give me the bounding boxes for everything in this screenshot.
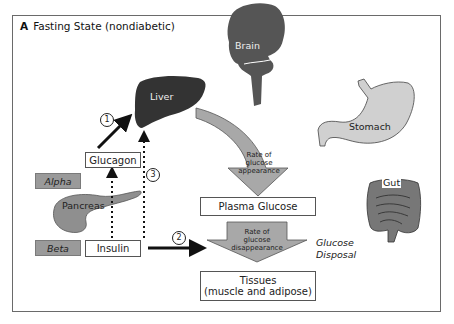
brain-icon bbox=[228, 3, 285, 106]
alpha-cell-label: Alpha bbox=[35, 173, 81, 189]
glucose-disposal-label: Glucose Disposal bbox=[316, 237, 356, 261]
brain-label: Brain bbox=[235, 40, 260, 51]
tissues-sublabel: (muscle and adipose) bbox=[204, 286, 312, 297]
title-text: Fasting State (nondiabetic) bbox=[33, 20, 175, 32]
step-2-marker: 2 bbox=[172, 231, 186, 245]
figure-title: AFasting State (nondiabetic) bbox=[20, 20, 175, 32]
liver-label: Liver bbox=[150, 91, 173, 102]
pancreas-icon bbox=[53, 191, 141, 233]
pancreas-label: Pancreas bbox=[62, 200, 105, 211]
tissues-label: Tissues bbox=[240, 275, 277, 286]
stomach-label: Stomach bbox=[349, 121, 391, 132]
beta-cell-label: Beta bbox=[35, 240, 81, 256]
gut-icon bbox=[367, 179, 421, 242]
plasma-glucose-box: Plasma Glucose bbox=[200, 197, 316, 216]
tissues-box: Tissues (muscle and adipose) bbox=[200, 271, 316, 301]
step-1-marker: 1 bbox=[100, 113, 114, 127]
gut-label: Gut bbox=[382, 177, 401, 188]
insulin-box: Insulin bbox=[85, 240, 141, 257]
panel-letter: A bbox=[20, 20, 28, 32]
appearance-arrow-label: Rate of glucose appearance bbox=[236, 151, 282, 175]
stomach-icon bbox=[318, 79, 414, 146]
glucagon-box: Glucagon bbox=[85, 152, 141, 168]
disappearance-arrow-label: Rate of glucose disappearance bbox=[229, 228, 285, 252]
step-3-marker: 3 bbox=[146, 168, 160, 182]
